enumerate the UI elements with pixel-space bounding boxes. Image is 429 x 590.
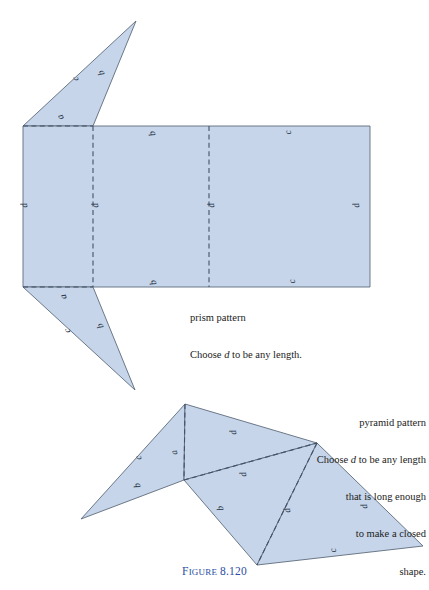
pyramid-left-wing-face xyxy=(81,404,185,519)
pyramid-caption-line-4: to make a closed xyxy=(258,528,426,540)
prism-top-triangle-flap xyxy=(23,21,136,126)
figure-word-initial: F xyxy=(182,565,189,577)
pyramid-caption-line-3: that is long enough xyxy=(258,491,426,503)
prism-caption: prism pattern Choose d to be any length. xyxy=(190,287,302,386)
prism-caption-line-1: prism pattern xyxy=(190,312,302,324)
prism-caption-line-2-post: to be any length. xyxy=(229,349,302,360)
prism-bottom-triangle-flap xyxy=(23,287,135,390)
prism-caption-line-2: Choose d to be any length. xyxy=(190,349,302,361)
figure-number-value: 8.120 xyxy=(220,565,247,577)
pyramid-caption-line-2-pre: Choose xyxy=(317,454,351,465)
pyramid-caption-line-2: Choose d to be any length xyxy=(258,454,426,466)
figure-8-120: cbabcddddbcacb cadbdbddc prism pattern C… xyxy=(0,0,429,590)
pyramid-caption: pyramid pattern Choose d to be any lengt… xyxy=(258,392,426,590)
pyramid-caption-line-2-post: to be any length xyxy=(356,454,426,465)
prism-main-rectangle xyxy=(23,126,370,287)
prism-caption-line-2-pre: Choose xyxy=(190,349,224,360)
figure-number-caption: FIGURE 8.120 xyxy=(0,565,429,577)
figure-word-rest: IGURE xyxy=(189,567,218,577)
pyramid-caption-line-1: pyramid pattern xyxy=(258,417,426,429)
